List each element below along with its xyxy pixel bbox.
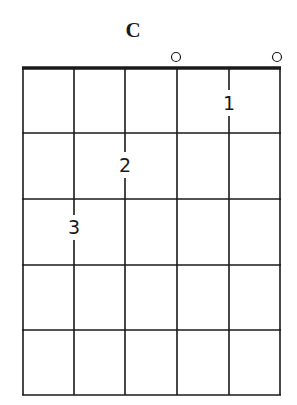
finger-1-label: 1 <box>223 92 235 114</box>
string-lines <box>23 68 280 395</box>
finger-2-label: 2 <box>119 154 131 176</box>
finger-3-label: 3 <box>68 216 80 238</box>
fret-lines <box>22 133 281 395</box>
chord-diagram: 1 2 3 <box>0 0 297 405</box>
open-string-marker-g <box>172 53 181 62</box>
open-string-marker-high-e <box>273 53 282 62</box>
